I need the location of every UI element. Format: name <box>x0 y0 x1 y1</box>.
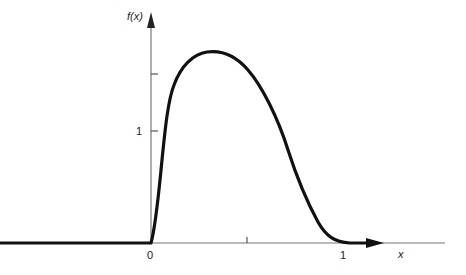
x-axis-label: x <box>397 248 404 260</box>
x-axis-arrow-icon <box>366 238 384 248</box>
density-curve <box>0 52 372 243</box>
x-tick-label-1: 1 <box>340 249 346 261</box>
x-tick-label-0: 0 <box>147 249 153 261</box>
y-axis-label: f(x) <box>127 10 143 22</box>
y-tick-label-1: 1 <box>136 125 142 137</box>
density-plot: f(x) 1 0 1 x <box>0 0 466 275</box>
y-axis-arrow-icon <box>147 12 155 28</box>
